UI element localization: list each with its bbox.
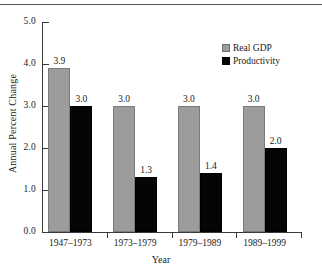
- y-axis-tick-label: 4.0: [2, 59, 36, 69]
- x-axis-title: Year: [0, 254, 322, 265]
- y-axis-title: Annual Percent Change: [7, 49, 18, 199]
- x-axis-category-label: 1989–1999: [225, 238, 305, 249]
- chart-legend: Real GDP Productivity: [222, 42, 280, 68]
- bar-value-label: 1.3: [130, 165, 162, 175]
- legend-item-real-gdp[interactable]: Real GDP: [222, 42, 280, 53]
- bar-value-label: 3.9: [43, 56, 75, 66]
- bar: [265, 148, 287, 232]
- chart-figure: Annual Percent Change 0.01.02.03.04.05.0…: [0, 0, 322, 272]
- y-axis-tick-label: 2.0: [2, 143, 36, 153]
- y-axis-tick-label: 1.0: [2, 185, 36, 195]
- bar: [135, 177, 157, 232]
- top-divider: [0, 4, 322, 5]
- legend-label: Productivity: [233, 55, 280, 67]
- gray-square-icon: [222, 44, 230, 52]
- bar-value-label: 3.0: [238, 94, 270, 104]
- bar-value-label: 3.0: [65, 94, 97, 104]
- y-axis-tick-label: 3.0: [2, 101, 36, 111]
- bar: [70, 106, 92, 232]
- bar: [48, 68, 70, 232]
- y-axis-tick-label: 0.0: [2, 227, 36, 237]
- y-axis-tick: [43, 232, 49, 233]
- bar-value-label: 1.4: [195, 161, 227, 171]
- bar: [200, 173, 222, 232]
- legend-item-productivity[interactable]: Productivity: [222, 55, 280, 66]
- bar-value-label: 3.0: [173, 94, 205, 104]
- bar-value-label: 2.0: [260, 136, 292, 146]
- legend-label: Real GDP: [233, 42, 272, 54]
- black-square-icon: [222, 57, 230, 65]
- bar-value-label: 3.0: [108, 94, 140, 104]
- bar: [243, 106, 265, 232]
- y-axis-tick-label: 5.0: [2, 17, 36, 27]
